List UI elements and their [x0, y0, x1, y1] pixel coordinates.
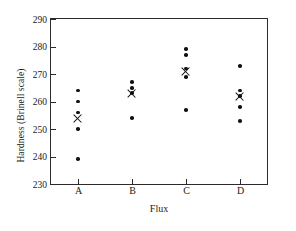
y-tick-label: 290: [33, 15, 47, 25]
y-axis-tick: 290: [51, 19, 56, 20]
group-mean-marker: [127, 88, 138, 99]
x-tick-label: D: [237, 185, 244, 196]
y-tick-label: 270: [33, 70, 47, 80]
y-tick-mark: [51, 102, 56, 103]
y-tick-mark: [51, 184, 56, 185]
data-point: [76, 100, 80, 104]
chart-figure: Hardness (Brinell scale) 230240250260270…: [0, 0, 296, 231]
data-point: [184, 53, 188, 57]
data-point: [184, 108, 188, 112]
y-axis-tick: 260: [51, 102, 56, 103]
data-point: [76, 157, 80, 161]
y-axis-tick: 270: [51, 74, 56, 75]
y-tick-label: 240: [33, 152, 47, 162]
data-point: [130, 116, 134, 120]
y-tick-label: 230: [33, 180, 47, 190]
group-mean-marker: [181, 66, 192, 77]
y-tick-label: 260: [33, 97, 47, 107]
y-axis-tick: 280: [51, 47, 56, 48]
x-tick-mark: [78, 179, 79, 184]
x-tick-mark: [132, 179, 133, 184]
data-point: [238, 105, 242, 109]
data-point: [76, 89, 80, 93]
x-axis-tick-d: D: [240, 179, 241, 184]
y-axis-tick: 250: [51, 129, 56, 130]
group-mean-marker: [235, 91, 246, 102]
group-mean-marker: [73, 113, 84, 124]
data-point: [238, 64, 242, 68]
data-point: [184, 47, 188, 51]
y-axis-tick: 230: [51, 184, 56, 185]
y-tick-mark: [51, 157, 56, 158]
y-axis-tick: 240: [51, 157, 56, 158]
x-axis-tick-a: A: [78, 179, 79, 184]
x-tick-label: B: [129, 185, 136, 196]
x-tick-mark: [186, 179, 187, 184]
x-axis-tick-c: C: [186, 179, 187, 184]
y-axis-title: Hardness (Brinell scale): [14, 0, 28, 231]
x-axis-title: Flux: [50, 203, 268, 214]
y-tick-mark: [51, 47, 56, 48]
y-tick-mark: [51, 74, 56, 75]
x-tick-label: A: [75, 185, 82, 196]
y-tick-mark: [51, 19, 56, 20]
x-tick-label: C: [183, 185, 190, 196]
x-axis-tick-b: B: [132, 179, 133, 184]
y-tick-label: 250: [33, 125, 47, 135]
x-tick-mark: [240, 179, 241, 184]
data-point: [238, 119, 242, 123]
data-layer: [51, 19, 267, 184]
y-tick-mark: [51, 129, 56, 130]
data-point: [130, 80, 134, 84]
plot-area: 230240250260270280290ABCD: [50, 18, 268, 185]
y-tick-label: 280: [33, 42, 47, 52]
data-point: [76, 127, 80, 131]
